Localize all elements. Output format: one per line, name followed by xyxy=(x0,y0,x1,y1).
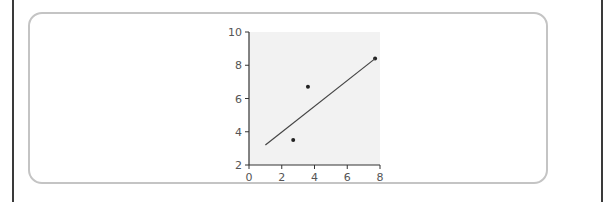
x-tick-label: 0 xyxy=(246,171,253,184)
y-tick-label: 4 xyxy=(235,126,242,139)
x-tick-label: 2 xyxy=(278,171,285,184)
x-tick-label: 4 xyxy=(311,171,318,184)
data-point xyxy=(291,138,295,142)
x-tick-label: 6 xyxy=(344,171,351,184)
y-tick-label: 6 xyxy=(235,93,242,106)
data-point xyxy=(306,85,310,89)
y-tick-label: 8 xyxy=(235,59,242,72)
y-ticks: 246810 xyxy=(228,26,249,172)
y-tick-label: 10 xyxy=(228,26,242,39)
y-tick-label: 2 xyxy=(235,159,242,172)
x-tick-label: 8 xyxy=(377,171,384,184)
x-ticks: 02468 xyxy=(246,165,384,184)
plot-area xyxy=(249,32,380,165)
scatter-chart: 246810 02468 xyxy=(0,0,615,202)
